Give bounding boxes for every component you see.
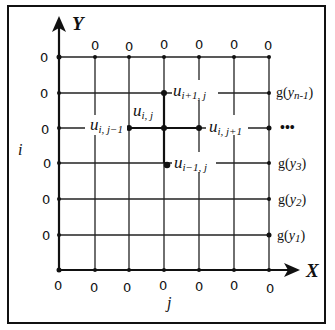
finite-difference-grid-diagram: Y X i j 0 0 0 0 0 0 0 0 0 0 0 0 0 0 0 0 … (0, 0, 335, 330)
diagram-frame (7, 5, 326, 324)
